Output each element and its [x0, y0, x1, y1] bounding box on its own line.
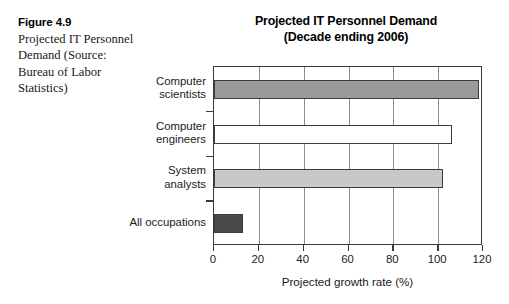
bar — [214, 125, 452, 144]
x-axis-tick-label: 100 — [414, 253, 460, 265]
x-axis-tick — [258, 245, 259, 251]
bar — [214, 169, 443, 188]
category-label: Computerscientists — [56, 75, 206, 102]
x-axis-tick-label: 40 — [280, 253, 326, 265]
x-axis-tick-label: 60 — [325, 253, 371, 265]
chart-title-subtitle: (Decade ending 2006) — [284, 30, 408, 44]
category-label-line: All occupations — [56, 216, 206, 230]
category-label-line: Computer — [56, 75, 206, 89]
chart-title: Projected IT Personnel Demand (Decade en… — [196, 14, 496, 45]
x-axis-title: Projected growth rate (%) — [213, 275, 482, 288]
category-label-line: Computer — [56, 120, 206, 134]
category-label-line: analysts — [56, 178, 206, 192]
bar-chart: Projected IT Personnel Demand (Decade en… — [0, 0, 509, 304]
category-label: Systemanalysts — [56, 164, 206, 191]
chart-title-main: Projected IT Personnel Demand — [255, 14, 437, 28]
plot-area — [213, 66, 482, 245]
x-axis-tick-label: 0 — [190, 253, 236, 265]
x-axis-tick — [437, 245, 438, 251]
x-axis-tick — [213, 245, 214, 251]
x-axis-tick-label: 20 — [235, 253, 281, 265]
y-axis-tick — [206, 111, 213, 112]
x-axis-tick — [348, 245, 349, 251]
category-label: Computerengineers — [56, 120, 206, 147]
x-axis-tick — [392, 245, 393, 251]
category-label-line: engineers — [56, 133, 206, 147]
category-label: All occupations — [56, 216, 206, 230]
x-axis-tick-label: 120 — [459, 253, 505, 265]
x-axis-tick-label: 80 — [369, 253, 415, 265]
bar — [214, 214, 243, 233]
category-label-line: scientists — [56, 88, 206, 102]
category-label-line: System — [56, 164, 206, 178]
y-axis-tick — [206, 200, 213, 201]
bar — [214, 80, 479, 99]
x-axis-tick — [303, 245, 304, 251]
x-axis-tick — [482, 245, 483, 251]
y-axis-tick — [206, 156, 213, 157]
